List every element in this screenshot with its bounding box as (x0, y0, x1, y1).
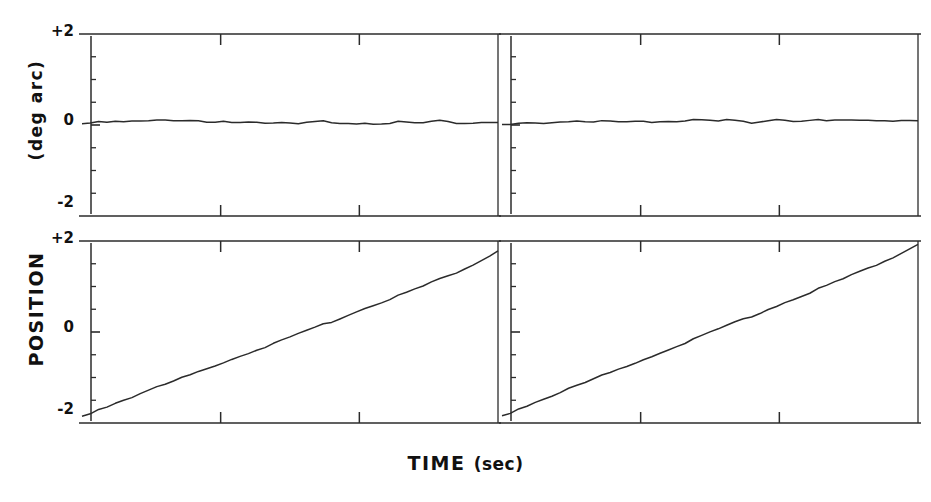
plot-panel-top-right (496, 28, 924, 222)
x-axis-label-main: TIME (408, 452, 466, 474)
plot-panel-top-left (76, 28, 504, 222)
plot-panel-bottom-left (76, 235, 504, 429)
plot-frame-bottom-left (76, 235, 504, 429)
plot-frame-bottom-right (496, 235, 924, 429)
figure-root: (deg arc) POSITION +2 0 -2 +2 0 -2 TIME … (0, 0, 931, 502)
x-axis-label-unit: (sec) (474, 454, 524, 474)
ytick-label-top-minus2: -2 (40, 195, 74, 210)
data-trace-top-right (502, 119, 918, 124)
data-trace-top-left (82, 120, 498, 124)
ytick-label-bottom-zero: 0 (40, 320, 74, 335)
plot-frame-top-right (496, 28, 924, 222)
data-trace-bottom-left (82, 251, 498, 416)
plot-panel-bottom-right (496, 235, 924, 429)
ytick-label-top-plus2: +2 (40, 24, 74, 39)
data-trace-bottom-right (502, 244, 918, 415)
ytick-label-bottom-minus2: -2 (40, 402, 74, 417)
ytick-label-top-zero: 0 (40, 113, 74, 128)
ytick-label-bottom-plus2: +2 (40, 231, 74, 246)
y-axis-label-deg-arc: (deg arc) (26, 30, 46, 190)
plot-frame-top-left (76, 28, 504, 222)
y-axis-label-position: POSITION (25, 224, 47, 394)
x-axis-label: TIME (sec) (0, 452, 931, 474)
